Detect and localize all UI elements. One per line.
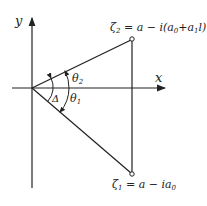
zeta1-label: ζ1 = a − ia0 [112, 178, 177, 192]
delta-label: Δ [51, 93, 59, 104]
diagram-svg: y x ζ2 = a − i(a0+a1l) ζ1 = a − ia0 θ2 θ… [0, 0, 207, 206]
y-axis-label: y [14, 13, 23, 28]
zeta2-label: ζ2 = a − i(a0+a1l) [110, 21, 206, 35]
ray-to-zeta1 [32, 88, 131, 173]
x-axis-label: x [155, 70, 163, 85]
zeta2-point [130, 37, 134, 41]
theta2-label: θ2 [72, 72, 84, 86]
theta1-arc [60, 88, 69, 112]
theta2-arc [65, 71, 69, 88]
theta1-label: θ1 [70, 92, 81, 106]
zeta1-point [130, 172, 134, 176]
complex-plane-diagram: y x ζ2 = a − i(a0+a1l) ζ1 = a − ia0 θ2 θ… [0, 0, 207, 206]
